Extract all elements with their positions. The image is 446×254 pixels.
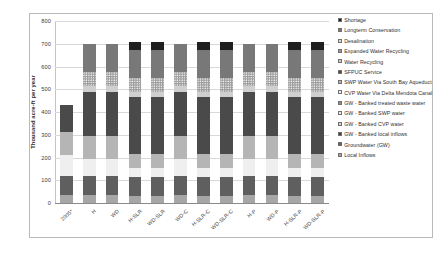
bar-segment[interactable]: [106, 92, 119, 136]
bar-segment[interactable]: [243, 176, 256, 195]
bar-segment[interactable]: [174, 159, 187, 176]
bar-segment[interactable]: [266, 136, 279, 159]
bar-group[interactable]: [311, 42, 324, 203]
bar-group[interactable]: [60, 105, 73, 203]
bar-segment[interactable]: [311, 97, 324, 154]
bar-segment[interactable]: [83, 159, 96, 176]
bar-segment[interactable]: [83, 44, 96, 72]
bar-group[interactable]: [288, 42, 301, 203]
bar-segment[interactable]: [151, 42, 164, 50]
bar-segment[interactable]: [106, 195, 119, 203]
bar-segment[interactable]: [83, 195, 96, 203]
bar-segment[interactable]: [243, 92, 256, 136]
bar-segment[interactable]: [243, 136, 256, 159]
bar-segment[interactable]: [288, 196, 301, 203]
bar-segment[interactable]: [197, 50, 210, 78]
bar-segment[interactable]: [311, 154, 324, 168]
bar-segment[interactable]: [220, 154, 233, 168]
legend-item[interactable]: Desalination: [338, 38, 436, 44]
bar-segment[interactable]: [266, 195, 279, 203]
bar-segment[interactable]: [129, 177, 142, 196]
bar-group[interactable]: [220, 42, 233, 203]
bar-segment[interactable]: [311, 78, 324, 92]
legend-item[interactable]: SFPUC Service: [338, 69, 436, 75]
bar-segment[interactable]: [174, 44, 187, 72]
bar-segment[interactable]: [106, 136, 119, 159]
bar-segment[interactable]: [243, 195, 256, 203]
bar-segment[interactable]: [197, 196, 210, 203]
bar-segment[interactable]: [243, 72, 256, 86]
bar-segment[interactable]: [288, 168, 301, 177]
bar-segment[interactable]: [151, 50, 164, 78]
legend-item[interactable]: Shortage: [338, 17, 436, 23]
bar-segment[interactable]: [220, 196, 233, 203]
bar-group[interactable]: [83, 44, 96, 203]
bar-segment[interactable]: [151, 78, 164, 92]
bar-segment[interactable]: [151, 97, 164, 154]
legend-item[interactable]: Groundwater (GW): [338, 142, 436, 148]
bar-segment[interactable]: [220, 42, 233, 50]
bar-segment[interactable]: [288, 42, 301, 50]
legend-item[interactable]: GW - Banked treated waste water: [338, 100, 436, 106]
bar-segment[interactable]: [220, 177, 233, 196]
bar-group[interactable]: [106, 44, 119, 203]
bar-segment[interactable]: [106, 44, 119, 72]
bar-segment[interactable]: [129, 154, 142, 168]
bar-segment[interactable]: [197, 168, 210, 177]
bar-segment[interactable]: [83, 176, 96, 195]
legend-item[interactable]: GW - Banked SWP water: [338, 110, 436, 116]
bar-segment[interactable]: [174, 195, 187, 203]
bar-segment[interactable]: [60, 195, 73, 203]
legend-item[interactable]: GW - Banked CVP water: [338, 121, 436, 127]
bar-group[interactable]: [266, 44, 279, 203]
bar-segment[interactable]: [311, 196, 324, 203]
bar-segment[interactable]: [129, 42, 142, 50]
bar-segment[interactable]: [288, 97, 301, 154]
bar-segment[interactable]: [60, 132, 73, 155]
bar-segment[interactable]: [129, 196, 142, 203]
bar-segment[interactable]: [83, 92, 96, 136]
bar-segment[interactable]: [220, 168, 233, 177]
legend-item[interactable]: Longterm Conservation: [338, 27, 436, 33]
bar-segment[interactable]: [220, 97, 233, 154]
bar-segment[interactable]: [197, 177, 210, 196]
bar-segment[interactable]: [83, 136, 96, 159]
bar-segment[interactable]: [197, 42, 210, 50]
bar-segment[interactable]: [129, 97, 142, 154]
bar-segment[interactable]: [266, 176, 279, 195]
bar-segment[interactable]: [311, 168, 324, 177]
bar-segment[interactable]: [174, 176, 187, 195]
legend-item[interactable]: Water Recycling: [338, 59, 436, 65]
bar-segment[interactable]: [129, 78, 142, 92]
legend-item[interactable]: Local Inflows: [338, 152, 436, 158]
legend-item[interactable]: CVP Water Via Delta Mendota Canal: [338, 90, 436, 96]
bar-segment[interactable]: [288, 177, 301, 196]
bar-segment[interactable]: [288, 154, 301, 168]
bar-segment[interactable]: [266, 44, 279, 72]
bar-group[interactable]: [151, 42, 164, 203]
bar-segment[interactable]: [243, 44, 256, 72]
bar-segment[interactable]: [60, 155, 73, 176]
bar-segment[interactable]: [174, 72, 187, 86]
legend-item[interactable]: SWP Water Via South Bay Aqueduct: [338, 79, 436, 85]
bar-segment[interactable]: [266, 92, 279, 136]
bar-segment[interactable]: [243, 159, 256, 176]
bar-segment[interactable]: [106, 159, 119, 176]
bar-segment[interactable]: [197, 97, 210, 154]
bar-segment[interactable]: [151, 168, 164, 177]
bar-segment[interactable]: [129, 168, 142, 177]
bar-segment[interactable]: [266, 72, 279, 86]
bar-segment[interactable]: [151, 177, 164, 196]
bar-segment[interactable]: [60, 105, 73, 132]
bar-segment[interactable]: [174, 92, 187, 136]
bar-segment[interactable]: [197, 154, 210, 168]
bar-segment[interactable]: [60, 176, 73, 195]
bar-segment[interactable]: [311, 42, 324, 50]
legend-item[interactable]: GW - Banked local inflows: [338, 131, 436, 137]
bar-segment[interactable]: [129, 50, 142, 78]
bar-group[interactable]: [129, 42, 142, 203]
bar-segment[interactable]: [311, 50, 324, 78]
bar-segment[interactable]: [220, 78, 233, 92]
bar-segment[interactable]: [151, 196, 164, 203]
legend-item[interactable]: Expanded Water Recycling: [338, 48, 436, 54]
